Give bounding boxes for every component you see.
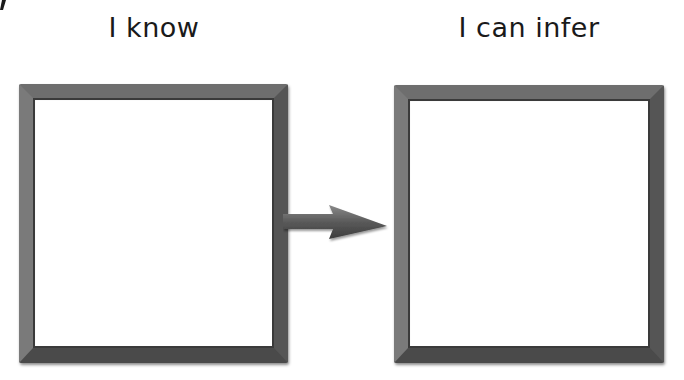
i-know-label: I know (19, 12, 289, 43)
i-can-infer-label: I can infer (394, 12, 664, 43)
i-know-box-area[interactable] (33, 98, 274, 348)
corner-mark (0, 0, 8, 10)
i-know-box[interactable] (19, 84, 288, 363)
i-can-infer-box[interactable] (394, 85, 664, 363)
i-can-infer-box-area[interactable] (408, 99, 650, 348)
arrow-right-icon (283, 200, 393, 245)
